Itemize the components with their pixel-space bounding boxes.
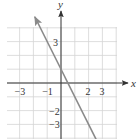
- line-graph: x y −3−1233−2−3: [0, 0, 138, 139]
- y-axis-label: y: [57, 0, 63, 10]
- y-tick-label: −2: [49, 106, 60, 117]
- x-tick-label: −1: [42, 86, 53, 97]
- y-tick-label: 3: [53, 37, 58, 48]
- x-axis-label: x: [130, 77, 136, 89]
- y-tick-label: −3: [49, 119, 60, 130]
- line-series: [35, 17, 107, 139]
- x-tick-label: 2: [86, 86, 91, 97]
- x-tick-label: 3: [99, 86, 104, 97]
- series: [35, 17, 107, 139]
- x-tick-label: −3: [15, 86, 26, 97]
